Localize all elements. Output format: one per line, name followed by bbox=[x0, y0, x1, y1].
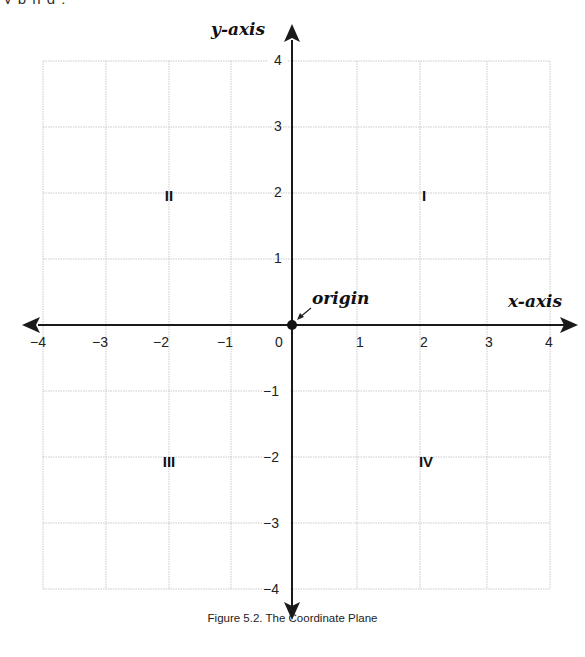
x-tick: 2 bbox=[420, 335, 428, 349]
y-tick: 4 bbox=[274, 53, 282, 67]
origin-label: origin bbox=[312, 290, 369, 307]
y-axis-title: y-axis bbox=[211, 21, 265, 38]
y-tick: 1 bbox=[274, 251, 282, 265]
y-tick: −4 bbox=[263, 582, 279, 596]
y-tick: 3 bbox=[274, 119, 282, 133]
x-tick: −4 bbox=[30, 335, 46, 349]
y-tick: −3 bbox=[263, 516, 279, 530]
y-tick: −1 bbox=[263, 384, 279, 398]
plane-svg bbox=[0, 0, 585, 657]
coordinate-plane-figure: y p n g , bbox=[0, 0, 585, 657]
y-tick: 2 bbox=[274, 185, 282, 199]
x-tick: 3 bbox=[485, 335, 493, 349]
figure-caption: Figure 5.2. The Coordinate Plane bbox=[0, 612, 585, 624]
x-tick: −3 bbox=[92, 335, 108, 349]
y-tick: −2 bbox=[263, 450, 279, 464]
quadrant-3-label: III bbox=[163, 454, 176, 469]
arrow-up-icon bbox=[284, 24, 300, 42]
quadrant-4-label: IV bbox=[419, 454, 433, 469]
arrow-left-icon bbox=[22, 317, 40, 333]
origin-point bbox=[287, 320, 297, 330]
x-tick: 0 bbox=[275, 335, 283, 349]
x-axis-line bbox=[22, 317, 578, 333]
x-axis-title: x-axis bbox=[508, 293, 562, 310]
origin-pointer-icon bbox=[297, 308, 311, 320]
x-tick: 4 bbox=[545, 335, 553, 349]
x-tick: 1 bbox=[356, 335, 364, 349]
quadrant-2-label: II bbox=[165, 188, 173, 203]
x-tick: −1 bbox=[217, 335, 233, 349]
quadrant-1-label: I bbox=[422, 188, 426, 203]
x-tick: −2 bbox=[153, 335, 169, 349]
